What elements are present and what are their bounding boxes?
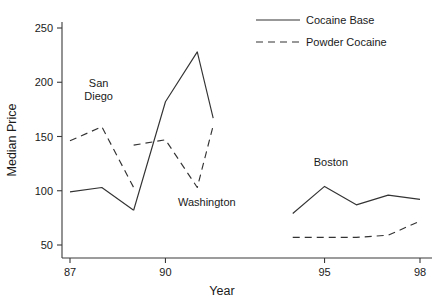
data-series — [70, 52, 420, 238]
axis-ticks — [57, 28, 420, 263]
series-line-powder-cocaine-boston — [293, 221, 420, 237]
series-line-powder-cocaine-san-diego — [70, 127, 134, 188]
legend-label-cocaine-base: Cocaine Base — [306, 14, 375, 26]
city-annotations: SanDiegoWashingtonBoston — [84, 77, 348, 208]
series-line-cocaine-base-san-diego — [70, 188, 134, 211]
series-line-cocaine-base-washington — [134, 52, 214, 210]
x-axis-title: Year — [209, 284, 234, 298]
x-axis-tick-labels: 87909598 — [64, 266, 426, 278]
legend-label-powder-cocaine: Powder Cocaine — [306, 36, 387, 48]
axes — [62, 22, 432, 258]
x-tick-label: 87 — [64, 266, 76, 278]
annotation-washington: Washington — [178, 196, 236, 208]
y-tick-label: 50 — [41, 239, 53, 251]
series-line-powder-cocaine-washington — [134, 126, 214, 188]
annotation-diego: Diego — [84, 90, 113, 102]
median-price-line-chart: 50100150200250 87909598 SanDiegoWashingt… — [0, 0, 444, 301]
annotation-san: San — [89, 77, 109, 89]
y-tick-label: 100 — [35, 185, 53, 197]
y-tick-label: 200 — [35, 76, 53, 88]
chart-legend: Cocaine BasePowder Cocaine — [256, 14, 387, 48]
x-tick-label: 95 — [318, 266, 330, 278]
y-axis-title: Median Price — [5, 103, 19, 176]
y-tick-label: 250 — [35, 22, 53, 34]
series-line-cocaine-base-boston — [293, 186, 420, 213]
y-axis-tick-labels: 50100150200250 — [35, 22, 53, 251]
annotation-boston: Boston — [314, 156, 348, 168]
y-tick-label: 150 — [35, 131, 53, 143]
chart-container: 50100150200250 87909598 SanDiegoWashingt… — [0, 0, 444, 301]
x-tick-label: 98 — [414, 266, 426, 278]
x-tick-label: 90 — [159, 266, 171, 278]
